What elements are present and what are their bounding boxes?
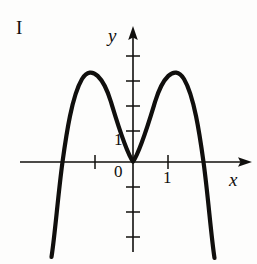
x-axis-tick-label-1: 1 — [163, 169, 172, 186]
figure-panel: I y x 0 1 1 — [0, 0, 257, 264]
y-axis-tick-label-1: 1 — [114, 131, 123, 148]
panel-label: I — [16, 18, 22, 37]
plot-canvas — [0, 0, 257, 264]
y-axis-label: y — [108, 26, 116, 45]
x-axis-label: x — [229, 170, 237, 189]
origin-label: 0 — [114, 163, 123, 180]
